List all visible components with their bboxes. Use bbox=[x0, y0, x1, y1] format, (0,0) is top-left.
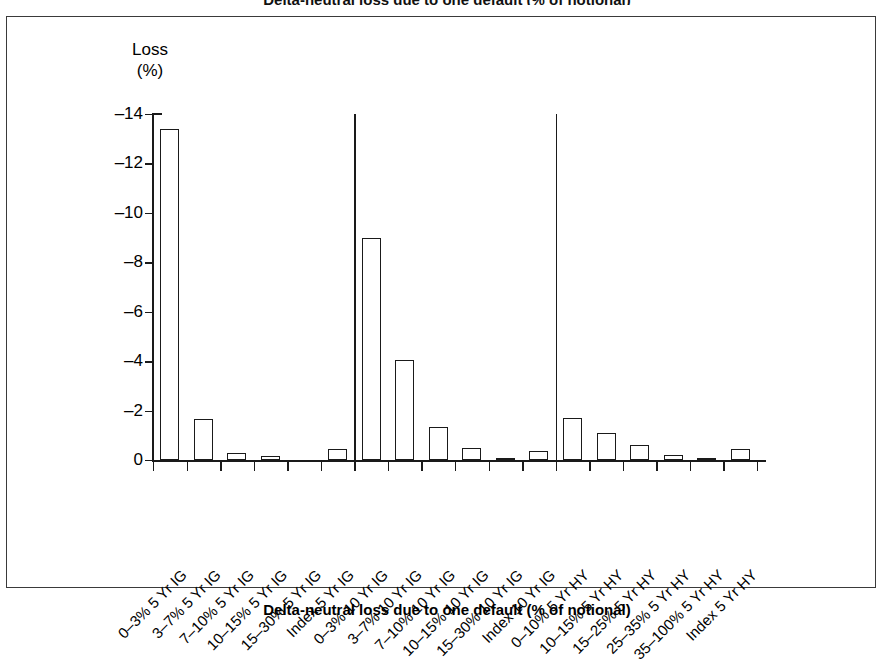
bar bbox=[496, 458, 515, 460]
x-tick-mark bbox=[187, 460, 188, 471]
y-tick-label: –10 bbox=[115, 203, 143, 223]
x-tick-mark bbox=[354, 460, 355, 471]
bar bbox=[563, 418, 582, 460]
x-tick-mark bbox=[254, 460, 255, 471]
bar bbox=[630, 445, 649, 460]
x-tick-mark bbox=[421, 460, 422, 471]
group-separator-line bbox=[354, 114, 356, 460]
bar bbox=[160, 129, 179, 460]
bar bbox=[194, 419, 213, 460]
bar bbox=[328, 449, 347, 460]
bar bbox=[731, 449, 750, 460]
y-tick-mark bbox=[145, 312, 153, 313]
bar bbox=[664, 455, 683, 460]
x-tick-mark bbox=[153, 460, 154, 471]
bar bbox=[462, 448, 481, 460]
x-tick-mark bbox=[757, 460, 758, 471]
x-tick-mark bbox=[287, 460, 288, 471]
x-tick-mark bbox=[656, 460, 657, 471]
y-tick-label: –8 bbox=[124, 252, 143, 272]
y-tick-mark bbox=[145, 114, 153, 115]
x-tick-mark bbox=[589, 460, 590, 471]
chart-panel: Loss (%) 0–2–4–6–8–10–12–14 0–3% 5 Yr IG… bbox=[6, 16, 876, 588]
x-tick-mark bbox=[489, 460, 490, 471]
bar bbox=[395, 360, 414, 460]
y-tick-label: 0 bbox=[134, 450, 143, 470]
bar bbox=[227, 453, 246, 460]
x-axis-line bbox=[152, 460, 766, 462]
x-tick-mark bbox=[623, 460, 624, 471]
y-tick-mark bbox=[145, 163, 153, 164]
x-tick-mark bbox=[321, 460, 322, 471]
x-tick-mark bbox=[723, 460, 724, 471]
bar bbox=[261, 456, 280, 460]
x-tick-mark bbox=[220, 460, 221, 471]
y-tick-mark bbox=[145, 460, 153, 461]
bar bbox=[697, 458, 716, 460]
y-tick-label: –6 bbox=[124, 302, 143, 322]
x-tick-mark bbox=[522, 460, 523, 471]
y-tick-label: –14 bbox=[115, 104, 143, 124]
y-tick-mark bbox=[145, 361, 153, 362]
x-tick-mark bbox=[556, 460, 557, 471]
x-tick-mark bbox=[455, 460, 456, 471]
bar bbox=[597, 433, 616, 460]
bar bbox=[429, 427, 448, 460]
plot-area: 0–2–4–6–8–10–12–14 0–3% 5 Yr IG3–7% 5 Yr… bbox=[153, 114, 757, 460]
y-axis-title-line2: (%) bbox=[105, 60, 195, 81]
bar bbox=[529, 451, 548, 460]
y-axis-title: Loss (%) bbox=[105, 39, 195, 81]
group-separator-line bbox=[556, 114, 558, 460]
clipped-figure-title: Delta-neutral loss due to one default (%… bbox=[0, 0, 894, 5]
y-tick-mark bbox=[145, 411, 153, 412]
y-tick-label: –4 bbox=[124, 351, 143, 371]
x-tick-mark bbox=[388, 460, 389, 471]
x-tick-mark bbox=[690, 460, 691, 471]
y-axis-title-line1: Loss bbox=[105, 39, 195, 60]
bar bbox=[362, 238, 381, 460]
y-tick-mark bbox=[145, 213, 153, 214]
y-tick-label: –12 bbox=[115, 153, 143, 173]
y-tick-mark bbox=[145, 262, 153, 263]
figure-caption: Delta-neutral loss due to one default (%… bbox=[0, 601, 894, 619]
y-tick-label: –2 bbox=[124, 401, 143, 421]
